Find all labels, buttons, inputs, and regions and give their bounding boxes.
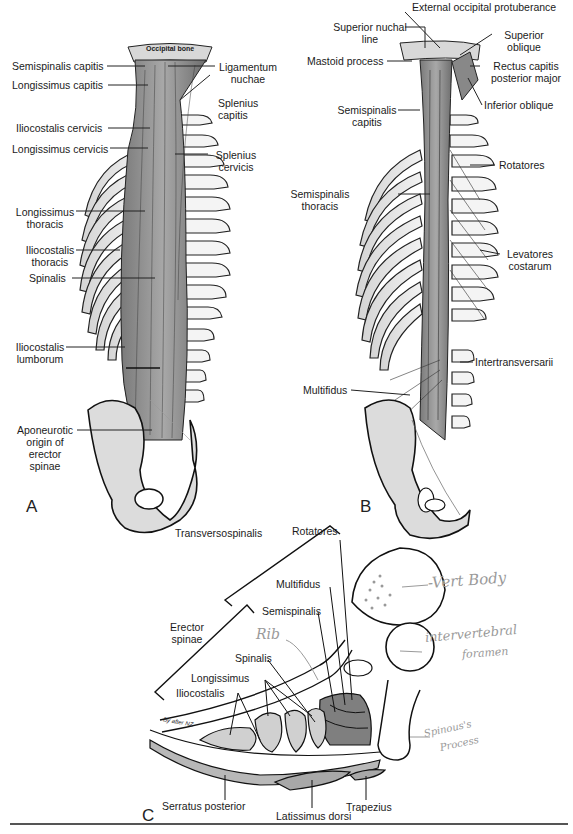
label-occipital-bone: Occipital bone bbox=[146, 43, 194, 55]
label-trapezius: Trapezius bbox=[346, 801, 392, 813]
label-semispinalis-capitis: Semispinalis capitis bbox=[12, 60, 104, 72]
label-ligamentum-nuchae: Ligamentum nuchae bbox=[216, 61, 280, 85]
label-iliocostalis-cervicis: Iliocostalis cervicis bbox=[16, 122, 102, 134]
label-external-occipital-protuberance: External occipital protuberance bbox=[412, 1, 556, 13]
label-longissimus-thoracis: Longissimus thoracis bbox=[14, 206, 76, 230]
label-splenius-capitis: Splenius capitis bbox=[218, 97, 258, 121]
panel-c-drawing bbox=[150, 526, 445, 808]
label-rotatores-b: Rotatores bbox=[499, 159, 545, 171]
label-multifidus-b: Multifidus bbox=[303, 384, 347, 396]
panel-a-drawing bbox=[80, 44, 230, 533]
label-splenius-cervicis: Splenius cervicis bbox=[208, 149, 264, 173]
label-spinalis-c: Spinalis bbox=[235, 652, 272, 664]
label-transversospinalis: Transversospinalis bbox=[175, 527, 262, 539]
panel-letter-b: B bbox=[360, 497, 371, 517]
handwritten-rib: Rib bbox=[256, 626, 280, 642]
label-inferior-oblique: Inferior oblique bbox=[484, 99, 553, 111]
label-longissimus-c: Longissimus bbox=[191, 672, 249, 684]
label-multifidus-c: Multifidus bbox=[276, 578, 320, 590]
label-rotatores-c: Rotatores bbox=[292, 525, 338, 537]
label-aponeurotic-origin: Aponeurotic origin of erector spinae bbox=[14, 424, 76, 472]
label-longissimus-capitis: Longissimus capitis bbox=[12, 79, 103, 91]
label-intertransversarii: Intertransversarii bbox=[475, 356, 553, 368]
label-levatores-costarum: Levatores costarum bbox=[502, 248, 558, 272]
label-semispinalis-thoracis: Semispinalis thoracis bbox=[287, 188, 353, 212]
panel-letter-a: A bbox=[26, 497, 37, 517]
label-serratus-posterior: Serratus posterior bbox=[162, 800, 245, 812]
label-iliocostalis-thoracis: Iliocostalis thoracis bbox=[22, 244, 78, 268]
label-superior-nuchal-line: Superior nuchal line bbox=[330, 21, 410, 45]
label-rectus-capitis-posterior-major: Rectus capitis posterior major bbox=[483, 60, 569, 84]
label-superior-oblique: Superior oblique bbox=[494, 29, 554, 53]
label-erector-spinae: Erector spinae bbox=[162, 621, 212, 645]
label-longissimus-cervicis: Longissimus cervicis bbox=[12, 143, 108, 155]
label-latissimus-dorsi: Latissimus dorsi bbox=[276, 810, 351, 822]
label-iliocostalis-lumborum: Iliocostalis lumborum bbox=[12, 341, 68, 365]
label-spinalis: Spinalis bbox=[29, 272, 66, 284]
label-semispinalis-capitis-b: Semispinalis capitis bbox=[337, 104, 397, 128]
label-iliocostalis-c: Iliocostalis bbox=[176, 687, 224, 699]
page-bottom-rule bbox=[10, 823, 568, 825]
label-mastoid-process: Mastoid process bbox=[307, 55, 383, 67]
label-semispinalis-c: Semispinalis bbox=[262, 605, 321, 617]
